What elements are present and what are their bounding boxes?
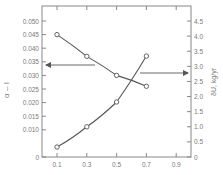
series-line-1 [57, 56, 146, 147]
left-tick-label: 0.035 [23, 58, 40, 65]
left-tick-label: 0.020 [23, 99, 40, 106]
left-tick-label: 0.025 [23, 86, 40, 93]
left-tick-label: 0.010 [23, 126, 40, 133]
x-tick-label: 0.9 [172, 161, 181, 168]
x-tick-label: 0.7 [142, 161, 151, 168]
series-group [55, 32, 149, 149]
right-tick-label: 2.5 [194, 78, 203, 85]
x-tick-label: 0.5 [112, 161, 121, 168]
data-point [144, 54, 148, 58]
data-point [85, 125, 89, 129]
right-tick-label: 3.5 [194, 48, 203, 55]
data-point [114, 100, 118, 104]
right-tick-label: 1.5 [194, 108, 203, 115]
left-tick-label: 0.030 [23, 72, 40, 79]
dual-axis-line-chart: 00.0100.0150.0200.0250.0300.0350.0400.04… [0, 0, 223, 175]
data-point [144, 84, 148, 88]
right-tick-label: 4.0 [194, 33, 203, 40]
data-point [55, 32, 59, 36]
right-axis: 00.51.01.52.02.53.03.54.04.5 [187, 18, 203, 161]
right-tick-label: 0.5 [194, 138, 203, 145]
x-axis: 0.10.30.50.70.9 [52, 6, 181, 168]
x-tick-label: 0.1 [52, 161, 61, 168]
left-tick-label: 0.040 [23, 45, 40, 52]
left-tick-label: 0.045 [23, 31, 40, 38]
left-axis: 00.0100.0150.0200.0250.0300.0350.0400.04… [23, 18, 46, 161]
x-tick-label: 0.3 [82, 161, 91, 168]
data-point [114, 73, 118, 77]
right-tick-label: 2.0 [194, 93, 203, 100]
right-axis-label: δU, kg/yr [210, 67, 218, 96]
plot-frame [42, 6, 191, 157]
right-tick-label: 3.0 [194, 63, 203, 70]
left-tick-label: 0.015 [23, 113, 40, 120]
right-tick-label: 4.5 [194, 18, 203, 25]
right-tick-label: 0 [194, 154, 198, 161]
left-tick-label: 0 [35, 154, 39, 161]
left-tick-label: 0.050 [23, 18, 40, 25]
data-point [55, 145, 59, 149]
left-axis-label: α – I [2, 82, 11, 98]
data-point [85, 54, 89, 58]
right-tick-label: 1.0 [194, 123, 203, 130]
